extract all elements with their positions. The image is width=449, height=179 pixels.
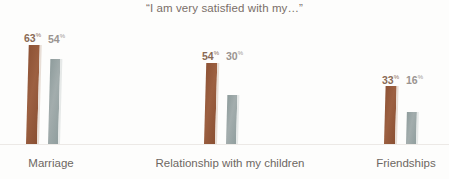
percent-symbol: % [60, 33, 65, 39]
value-label-secondary: 30% [226, 50, 243, 61]
bar-secondary[interactable] [48, 59, 58, 144]
bar-edge [395, 86, 399, 144]
bar-primary[interactable] [384, 86, 395, 144]
bar-group-relationship-with-my-children: 54% 30% [202, 34, 254, 144]
percent-symbol: % [394, 74, 399, 80]
bar-group-marriage: 63% 54% [24, 34, 76, 144]
percent-symbol: % [214, 50, 219, 56]
bar-secondary[interactable] [226, 95, 236, 144]
category-label-marriage: Marriage [8, 157, 94, 169]
plot-area: 63% 54% 54% 30% [0, 0, 449, 179]
bar-primary[interactable] [26, 45, 37, 144]
bar-chart: “I am very satisfied with my…” 63% 54% [0, 0, 449, 179]
value-label-primary: 54% [202, 50, 219, 61]
value-label-secondary: 16% [406, 74, 423, 85]
value-number: 63 [24, 32, 36, 44]
axis-baseline [0, 144, 449, 145]
bar-secondary[interactable] [406, 112, 416, 144]
value-number: 33 [382, 74, 394, 86]
bars-wrap [382, 34, 434, 144]
value-label-secondary: 54% [48, 33, 65, 44]
bar-edge [416, 112, 419, 144]
percent-symbol: % [36, 32, 41, 38]
value-number: 54 [202, 50, 214, 62]
bar-group-friendships: 33% 16% [382, 34, 434, 144]
value-number: 16 [406, 74, 418, 86]
percent-symbol: % [418, 74, 423, 80]
bar-edge [236, 95, 239, 144]
bar-primary[interactable] [204, 63, 215, 144]
bars-wrap [24, 34, 76, 144]
value-label-primary: 33% [382, 74, 399, 85]
value-number: 54 [48, 33, 60, 45]
percent-symbol: % [238, 50, 243, 56]
category-label-relationship-with-my-children: Relationship with my children [140, 157, 320, 169]
category-label-friendships: Friendships [363, 157, 449, 169]
value-number: 30 [226, 50, 238, 62]
value-label-primary: 63% [24, 32, 41, 43]
